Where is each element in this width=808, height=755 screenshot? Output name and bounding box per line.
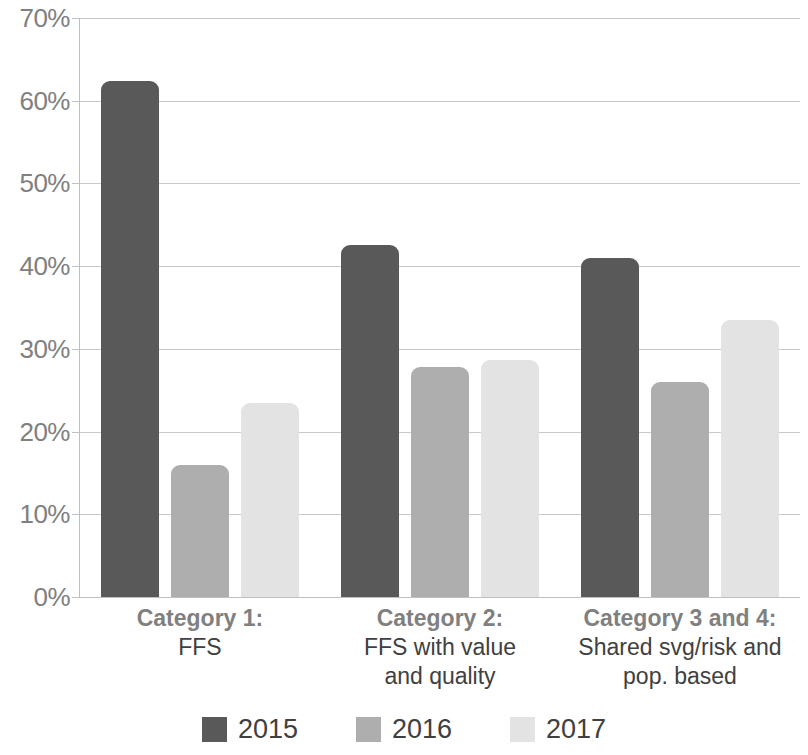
legend-label: 2015 (238, 716, 298, 743)
legend-swatch-icon (356, 717, 381, 742)
legend-swatch-icon (510, 717, 535, 742)
legend-item-2015[interactable]: 2015 (202, 716, 298, 743)
bars-layer (80, 18, 800, 597)
y-axis-tick-label: 60% (4, 88, 70, 114)
y-axis-tick-mark (72, 432, 79, 433)
category-subtitle: and quality (320, 662, 560, 691)
y-axis-tick-mark (72, 101, 79, 102)
category-subtitle: FFS (80, 633, 320, 662)
x-axis-line (79, 597, 800, 598)
bar-2016-group-3 (651, 382, 709, 597)
y-axis-tick-label: 30% (4, 336, 70, 362)
y-axis-tick-mark (72, 597, 79, 598)
category-title: Category 2: (320, 604, 560, 633)
legend-label: 2017 (546, 716, 606, 743)
x-axis-category-label-2: Category 2:FFS with valueand quality (320, 604, 560, 691)
y-axis-tick-mark (72, 18, 79, 19)
category-title: Category 3 and 4: (560, 604, 800, 633)
legend-label: 2016 (392, 716, 452, 743)
y-axis-tick-label: 10% (4, 501, 70, 527)
bar-2015-group-2 (341, 245, 399, 597)
y-axis-tick-label: 70% (4, 5, 70, 31)
bar-2015-group-1 (101, 81, 159, 597)
bar-chart: 0%10%20%30%40%50%60%70% Category 1:FFSCa… (0, 0, 808, 755)
category-subtitle: Shared svg/risk and (560, 633, 800, 662)
x-axis-category-label-1: Category 1:FFS (80, 604, 320, 662)
y-axis-tick-mark (72, 266, 79, 267)
legend-swatch-icon (202, 717, 227, 742)
bar-2017-group-1 (241, 403, 299, 597)
category-subtitle: pop. based (560, 662, 800, 691)
category-title: Category 1: (80, 604, 320, 633)
legend-item-2016[interactable]: 2016 (356, 716, 452, 743)
y-axis-tick-label: 40% (4, 253, 70, 279)
y-axis-tick-label: 0% (4, 584, 70, 610)
bar-2015-group-3 (581, 258, 639, 597)
bar-2016-group-1 (171, 465, 229, 597)
bar-2016-group-2 (411, 367, 469, 597)
chart-legend: 201520162017 (0, 716, 808, 755)
y-axis-tick-label: 50% (4, 170, 70, 196)
y-axis-tick-label: 20% (4, 419, 70, 445)
x-axis-category-labels: Category 1:FFSCategory 2:FFS with valuea… (80, 604, 800, 704)
bar-2017-group-2 (481, 360, 539, 597)
category-subtitle: FFS with value (320, 633, 560, 662)
y-axis-tick-mark (72, 183, 79, 184)
x-axis-category-label-3: Category 3 and 4:Shared svg/risk andpop.… (560, 604, 800, 691)
y-axis-tick-mark (72, 514, 79, 515)
legend-item-2017[interactable]: 2017 (510, 716, 606, 743)
bar-2017-group-3 (721, 320, 779, 597)
y-axis-tick-mark (72, 349, 79, 350)
